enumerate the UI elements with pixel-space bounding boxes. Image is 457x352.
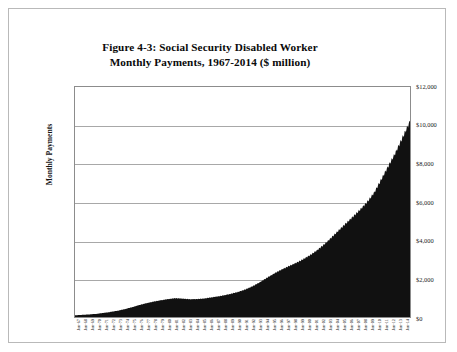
x-axis-tick: Jan-11 <box>383 319 390 345</box>
x-axis-tick: Jan-76 <box>137 319 144 345</box>
plot-area <box>74 86 411 318</box>
x-axis-tick-label: Jan-72 <box>110 319 115 330</box>
x-axis-tick-label: Jan-06 <box>349 319 354 330</box>
x-axis-tick-label: Jan-74 <box>124 319 129 330</box>
x-axis-tick: Jan-93 <box>257 319 264 345</box>
x-axis-tick-label: Jan-80 <box>166 319 171 330</box>
x-axis-tick: Jan-82 <box>179 319 186 345</box>
y-axis-tick-label: $8,000 <box>416 160 434 167</box>
x-axis-tick-label: Jan-81 <box>173 319 178 330</box>
x-axis-tick: Jan-90 <box>235 319 242 345</box>
x-axis-tick: Jan-14 <box>404 319 411 345</box>
x-axis-tick: Jan-86 <box>207 319 214 345</box>
x-axis-tick-label: Jan-78 <box>152 319 157 330</box>
x-axis-tick: Jan-97 <box>285 319 292 345</box>
x-axis-tick-label: Jan-73 <box>117 319 122 330</box>
x-axis-tick-label: Jan-84 <box>194 319 199 330</box>
x-axis-tick-label: Jan-70 <box>96 319 101 330</box>
chart-title: Figure 4-3: Social Security Disabled Wor… <box>40 40 380 70</box>
y-axis-tick-label: $6,000 <box>416 199 434 206</box>
x-axis-tick: Jan-72 <box>109 319 116 345</box>
x-axis-tick: Jan-10 <box>376 319 383 345</box>
area-series <box>75 87 410 317</box>
x-axis-tick-labels: Jan-67Jan-68Jan-69Jan-70Jan-71Jan-72Jan-… <box>74 319 411 347</box>
x-axis-tick-label: Jan-94 <box>265 319 270 330</box>
y-axis-tick-label: $2,000 <box>416 276 434 283</box>
x-axis-tick-label: Jan-02 <box>321 319 326 330</box>
x-axis-tick-label: Jan-04 <box>335 319 340 330</box>
x-axis-tick: Jan-71 <box>102 319 109 345</box>
figure-page: Figure 4-3: Social Security Disabled Wor… <box>0 0 457 352</box>
x-axis-tick-label: Jan-71 <box>103 319 108 330</box>
x-axis-tick: Jan-79 <box>158 319 165 345</box>
y-axis-tick-label: $4,000 <box>416 237 434 244</box>
x-axis-tick-label: Jan-79 <box>159 319 164 330</box>
x-axis-tick-label: Jan-90 <box>236 319 241 330</box>
x-axis-tick-label: Jan-99 <box>300 319 305 330</box>
x-axis-tick-label: Jan-77 <box>145 319 150 330</box>
x-axis-tick-label: Jan-89 <box>229 319 234 330</box>
x-axis-tick: Jan-81 <box>172 319 179 345</box>
y-axis-tick-label: $12,000 <box>416 83 437 90</box>
x-axis-tick: Jan-75 <box>130 319 137 345</box>
x-axis-tick: Jan-13 <box>397 319 404 345</box>
x-axis-tick-label: Jan-07 <box>356 319 361 330</box>
x-axis-tick-label: Jan-75 <box>131 319 136 330</box>
x-axis-tick: Jan-68 <box>81 319 88 345</box>
y-axis-tick-label: $0 <box>416 315 422 322</box>
x-axis-tick: Jan-92 <box>250 319 257 345</box>
x-axis-tick: Jan-12 <box>390 319 397 345</box>
x-axis-tick-label: Jan-14 <box>405 319 410 330</box>
x-axis-tick: Jan-01 <box>313 319 320 345</box>
x-axis-tick-label: Jan-93 <box>258 319 263 330</box>
chart-title-line-1: Figure 4-3: Social Security Disabled Wor… <box>40 40 380 55</box>
x-axis-tick: Jan-05 <box>341 319 348 345</box>
x-axis-tick: Jan-99 <box>299 319 306 345</box>
x-axis-tick-label: Jan-05 <box>342 319 347 330</box>
x-axis-tick-label: Jan-91 <box>244 319 249 330</box>
x-axis-tick-label: Jan-67 <box>75 319 80 330</box>
x-axis-tick-label: Jan-92 <box>251 319 256 330</box>
x-axis-tick: Jan-06 <box>348 319 355 345</box>
x-axis-tick-label: Jan-13 <box>398 319 403 330</box>
x-axis-tick: Jan-91 <box>243 319 250 345</box>
x-axis-tick: Jan-96 <box>278 319 285 345</box>
area-series-path <box>75 121 410 317</box>
x-axis-tick: Jan-07 <box>355 319 362 345</box>
x-axis-tick: Jan-02 <box>320 319 327 345</box>
x-axis-tick-label: Jan-96 <box>279 319 284 330</box>
y-axis-title: Monthly Payments <box>45 100 54 210</box>
x-axis-tick-label: Jan-12 <box>391 319 396 330</box>
x-axis-tick-label: Jan-76 <box>138 319 143 330</box>
x-axis-tick: Jan-95 <box>271 319 278 345</box>
x-axis-tick-label: Jan-82 <box>180 319 185 330</box>
chart-title-line-2: Monthly Payments, 1967-2014 ($ million) <box>40 55 380 70</box>
x-axis-tick: Jan-77 <box>144 319 151 345</box>
x-axis-tick-label: Jan-03 <box>328 319 333 330</box>
x-axis-tick: Jan-94 <box>264 319 271 345</box>
x-axis-tick: Jan-74 <box>123 319 130 345</box>
x-axis-tick-label: Jan-68 <box>82 319 87 330</box>
x-axis-tick-label: Jan-00 <box>307 319 312 330</box>
x-axis-tick: Jan-98 <box>292 319 299 345</box>
x-axis-tick-label: Jan-87 <box>215 319 220 330</box>
x-axis-tick: Jan-67 <box>74 319 81 345</box>
y-axis-tick-label: $10,000 <box>416 121 437 128</box>
x-axis-tick-label: Jan-83 <box>187 319 192 330</box>
x-axis-tick-label: Jan-95 <box>272 319 277 330</box>
x-axis-tick: Jan-89 <box>228 319 235 345</box>
x-axis-tick: Jan-80 <box>165 319 172 345</box>
x-axis-tick-label: Jan-08 <box>363 319 368 330</box>
x-axis-tick: Jan-88 <box>221 319 228 345</box>
x-axis-tick: Jan-73 <box>116 319 123 345</box>
x-axis-tick-label: Jan-85 <box>201 319 206 330</box>
x-axis-tick-label: Jan-97 <box>286 319 291 330</box>
x-axis-tick: Jan-85 <box>200 319 207 345</box>
x-axis-tick: Jan-03 <box>327 319 334 345</box>
x-axis-tick: Jan-70 <box>95 319 102 345</box>
x-axis-tick-label: Jan-01 <box>314 319 319 330</box>
x-axis-tick: Jan-08 <box>362 319 369 345</box>
x-axis-tick: Jan-04 <box>334 319 341 345</box>
x-axis-tick-label: Jan-98 <box>293 319 298 330</box>
x-axis-tick-label: Jan-69 <box>89 319 94 330</box>
